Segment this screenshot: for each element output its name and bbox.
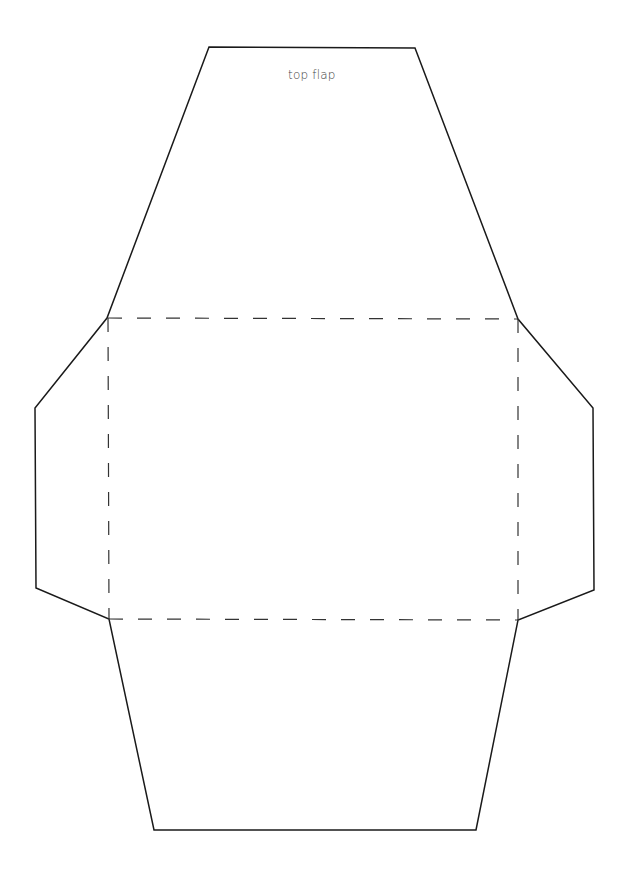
envelope-template <box>0 0 624 870</box>
cut-outline <box>35 47 594 830</box>
top-flap-label: top flap <box>288 68 336 82</box>
fold-line-top <box>108 318 518 319</box>
fold-line-left <box>108 318 109 619</box>
fold-line-bottom <box>109 619 518 620</box>
